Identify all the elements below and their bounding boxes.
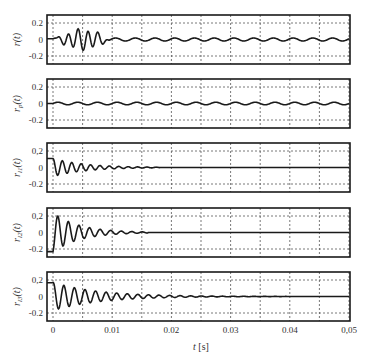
- x-tick-label: 0.01: [104, 325, 120, 335]
- y-tick-label: 0: [39, 163, 44, 173]
- y-tick-label: -0.2: [29, 308, 43, 318]
- y-tick-label: 0.2: [32, 82, 43, 92]
- x-tick-label: 0,05: [341, 325, 357, 335]
- y-tick-label: -0.2: [29, 244, 43, 254]
- y-tick-label: -0.2: [29, 51, 43, 61]
- panel-5: 0,20-0.2rl3(t): [11, 272, 350, 321]
- x-tick-label: 0.03: [223, 325, 239, 335]
- y-tick-label: 0: [39, 99, 44, 109]
- y-tick-label: 0: [39, 35, 44, 45]
- y-tick-label: 0: [39, 292, 44, 302]
- signal-trace: [47, 102, 349, 104]
- signal-trace: [47, 29, 349, 51]
- x-axis: 00.010.020.030.040,05t [s]: [51, 325, 358, 352]
- panel-2: 0.20-0.2rp(t): [11, 79, 350, 128]
- y-tick-label: -0.2: [29, 115, 43, 125]
- x-tick-label: 0.02: [164, 325, 180, 335]
- y-axis-label: rl3(t): [11, 286, 24, 305]
- panel-1: 0.20-0.2r(t): [11, 15, 350, 64]
- panel-3: 0,20-0.2rl1(t): [11, 143, 350, 192]
- panel-4: 0,20-0.2rl2(t): [11, 208, 350, 257]
- y-axis-label: rl1(t): [11, 157, 24, 176]
- y-tick-label: 0,2: [32, 211, 43, 221]
- y-tick-label: 0,2: [32, 146, 43, 156]
- x-tick-label: 0.04: [282, 325, 298, 335]
- y-tick-label: 0,2: [32, 275, 43, 285]
- y-tick-label: -0.2: [29, 179, 43, 189]
- chart-stack: 0.20-0.2r(t)0.20-0.2rp(t)0,20-0.2rl1(t)0…: [0, 0, 367, 361]
- y-tick-label: 0.2: [32, 18, 43, 28]
- signal-trace: [47, 283, 349, 309]
- y-axis-label: rl2(t): [11, 222, 24, 241]
- x-tick-label: 0: [51, 325, 56, 335]
- y-axis-label: r(t): [11, 32, 23, 46]
- signal-trace: [47, 158, 349, 175]
- signal-trace: [47, 216, 349, 251]
- y-tick-label: 0: [39, 228, 44, 238]
- y-axis-label: rp(t): [11, 94, 24, 112]
- x-axis-label: t [s]: [193, 341, 209, 352]
